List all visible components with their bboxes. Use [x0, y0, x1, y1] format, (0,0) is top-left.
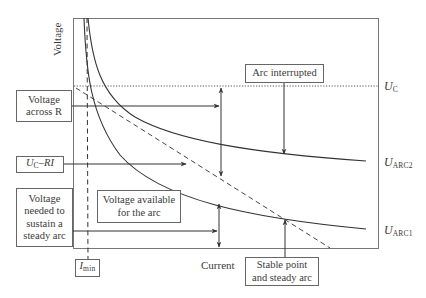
imin-box: Imin	[75, 259, 100, 277]
arc-interrupted-box: Arc interrupted	[245, 64, 324, 83]
uarc2-label: UARC2	[384, 155, 413, 170]
uc-label: UC	[384, 79, 398, 94]
voltage-available-box: Voltage available for the arc	[97, 190, 181, 223]
imin-dashed-line	[87, 18, 88, 262]
load-line-dashed	[76, 88, 330, 248]
x-axis-label: Current	[201, 259, 235, 271]
uc-minus-ri-box: UC–RI	[16, 156, 64, 173]
uarc2-curve	[88, 18, 366, 161]
stable-point-box: Stable point and steady arc	[245, 257, 319, 286]
uarc1-label: UARC1	[384, 223, 413, 238]
voltage-across-r-box: Voltage across R	[16, 90, 72, 122]
y-axis-label: Voltage	[51, 23, 63, 56]
voltage-needed-box: Voltage needed to sustain a steady arc	[16, 188, 73, 247]
arc-voltage-diagram	[0, 0, 426, 298]
